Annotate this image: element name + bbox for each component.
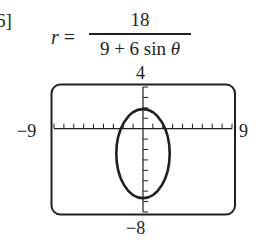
axes xyxy=(54,87,232,212)
ymin-label: −8 xyxy=(126,219,145,237)
calculator-graph xyxy=(0,0,262,240)
ymax-label: 4 xyxy=(136,64,145,82)
xmin-label: −9 xyxy=(17,122,36,140)
xmax-label: 9 xyxy=(239,122,248,140)
